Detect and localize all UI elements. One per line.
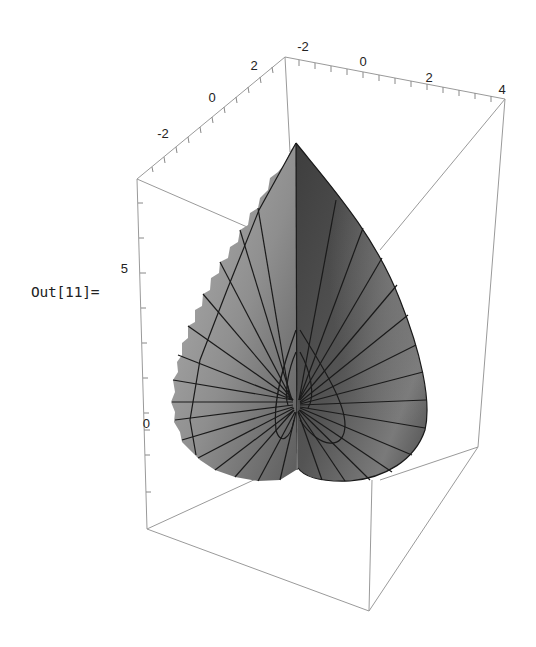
y-axis-ticks [152,67,273,172]
y-tick-label: 0 [208,90,215,105]
surface-left-half [171,143,298,481]
plot-3d[interactable]: -2 0 2 -2 0 2 4 5 0 [0,0,536,647]
y-tick-label: 2 [250,58,257,73]
x-tick-label: 4 [498,82,505,97]
x-tick-label: -2 [297,39,309,54]
z-tick-label: 0 [143,416,150,431]
x-tick-label: 2 [425,70,432,85]
y-tick-label: -2 [157,126,169,141]
z-tick-label: 5 [121,261,128,276]
x-axis-ticks [299,60,491,102]
x-tick-label: 0 [359,54,366,69]
